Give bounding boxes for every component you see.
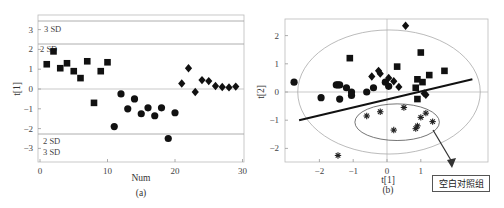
x-tick-label-b: −2 <box>315 166 325 176</box>
marker-square <box>347 55 354 62</box>
x-axis-label-b: t[1] <box>381 175 395 185</box>
marker-square <box>412 84 419 91</box>
sd2-lower-label: 2 SD <box>43 136 60 146</box>
y-tick-label-a: −2 <box>23 124 33 134</box>
marker-square <box>77 75 84 82</box>
marker-star-center <box>392 129 395 132</box>
marker-star-center <box>379 110 382 113</box>
plot-frame-b <box>285 19 488 162</box>
y-tick-label-b: 0 <box>275 87 280 97</box>
marker-diamond <box>178 79 185 87</box>
marker-square <box>419 79 426 86</box>
marker-circle <box>348 92 355 99</box>
marker-square <box>57 65 64 72</box>
marker-star-center <box>425 112 428 115</box>
marker-circle <box>370 84 377 91</box>
marker-diamond <box>402 22 409 30</box>
marker-diamond <box>395 83 402 91</box>
y-tick-label-a: −3 <box>23 143 33 153</box>
y-tick-label-a: 0 <box>29 84 34 94</box>
x-tick-label-b: −1 <box>348 166 358 176</box>
marker-star-center <box>403 106 406 109</box>
y-tick-label-b: −1 <box>269 115 279 125</box>
sd3-lower-label: 3 SD <box>43 147 60 157</box>
marker-star-center <box>414 127 417 130</box>
x-axis-label-a: Num <box>132 173 152 183</box>
marker-diamond <box>368 72 375 80</box>
marker-square <box>84 58 91 65</box>
marker-circle <box>151 112 158 119</box>
y-axis-label-b: t[2] <box>256 85 266 99</box>
x-tick-label-b: 1 <box>419 166 424 176</box>
x-tick-label-a: 30 <box>238 166 248 176</box>
marker-diamond <box>205 77 212 85</box>
caption-b: (b) <box>382 185 393 196</box>
marker-circle <box>317 94 324 101</box>
marker-square <box>426 72 433 79</box>
x-tick-label-a: 20 <box>171 166 181 176</box>
marker-circle <box>124 105 131 112</box>
marker-circle <box>171 109 178 116</box>
marker-circle <box>385 83 392 90</box>
marker-circle <box>144 104 151 111</box>
marker-circle <box>165 135 172 142</box>
marker-circle <box>111 123 118 130</box>
x-tick-label-a: 0 <box>38 166 43 176</box>
marker-diamond <box>185 64 192 72</box>
marker-square <box>70 68 77 75</box>
marker-square <box>91 100 98 107</box>
marker-star-center <box>365 115 368 118</box>
marker-circle <box>363 88 370 95</box>
marker-square <box>394 63 401 70</box>
y-tick-label-b: 2 <box>275 31 280 41</box>
caption-a: (a) <box>136 188 147 199</box>
marker-diamond <box>225 83 232 91</box>
callout-arrow-line <box>433 130 452 162</box>
marker-circle <box>131 95 138 102</box>
figure: 3 SD2 SD2 SD3 SD3210−1−2−30102030Num(a)t… <box>0 0 504 208</box>
marker-square <box>104 59 111 66</box>
marker-circle <box>290 79 297 86</box>
marker-circle <box>336 95 343 102</box>
y-tick-label-b: 1 <box>275 59 280 69</box>
y-tick-label-a: 2 <box>29 44 34 54</box>
callout-arrow-head <box>447 158 456 168</box>
marker-circle <box>158 104 165 111</box>
marker-circle <box>138 110 145 117</box>
marker-star-center <box>337 154 340 157</box>
marker-square <box>441 68 448 75</box>
chart-a: 3 SD2 SD2 SD3 SD3210−1−2−30102030Num(a)t… <box>0 0 504 208</box>
marker-square <box>64 60 71 67</box>
marker-square <box>97 68 104 75</box>
blank-control-callout: 空白对照组 <box>432 175 490 192</box>
x-tick-label-a: 10 <box>103 166 113 176</box>
sd3-upper-label: 3 SD <box>44 24 61 34</box>
marker-diamond <box>232 82 239 90</box>
blank-control-ellipse <box>355 104 440 141</box>
y-tick-label-a: 3 <box>29 25 34 35</box>
marker-circle <box>336 81 343 88</box>
marker-star-center <box>420 116 423 119</box>
y-axis-label-a: t[1] <box>12 82 22 96</box>
y-tick-label-a: 1 <box>29 64 34 74</box>
marker-star-center <box>431 120 434 123</box>
marker-diamond <box>219 83 226 91</box>
marker-diamond <box>198 76 205 84</box>
plot-frame-a <box>38 15 244 162</box>
marker-circle <box>117 90 124 97</box>
y-tick-label-b: −2 <box>269 143 279 153</box>
marker-square <box>418 49 425 56</box>
marker-square <box>414 96 421 103</box>
y-tick-label-a: −1 <box>23 104 33 114</box>
marker-square <box>43 61 50 68</box>
marker-square <box>50 48 57 55</box>
